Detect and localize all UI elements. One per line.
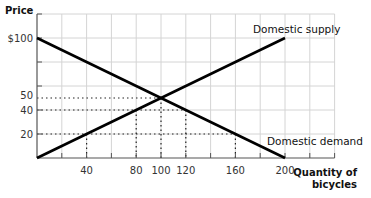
x-tick-label: 40: [80, 165, 93, 176]
y-axis-title: Price: [5, 5, 34, 16]
supply-demand-chart: 4080100120160200$100504020 Price Quantit…: [0, 0, 371, 198]
demand-label: Domestic demand: [267, 135, 363, 147]
y-tick-label: $100: [8, 33, 33, 44]
x-tick-label: 160: [226, 165, 245, 176]
y-tick-label: 20: [20, 129, 33, 140]
y-tick-label: 50: [20, 90, 33, 101]
x-tick-label: 200: [275, 165, 294, 176]
x-axis-title-line2: bicycles: [312, 179, 357, 190]
y-tick-label: 40: [20, 105, 33, 116]
supply-label: Domestic supply: [253, 23, 340, 35]
x-tick-label: 80: [130, 165, 143, 176]
x-axis-title-line1: Quantity of: [293, 167, 357, 178]
x-tick-label: 100: [151, 165, 170, 176]
x-tick-label: 120: [176, 165, 195, 176]
